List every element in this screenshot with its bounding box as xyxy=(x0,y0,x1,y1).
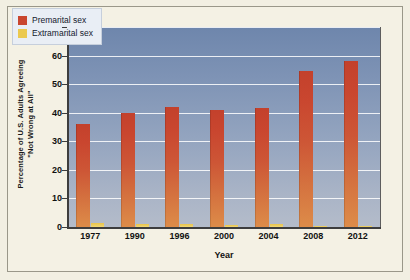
x-tick-label: 1990 xyxy=(125,231,145,241)
y-tick-mark xyxy=(62,198,67,199)
y-tick-label: 20 xyxy=(36,165,62,175)
y-axis-line xyxy=(67,27,69,228)
bar-premarital xyxy=(165,107,179,227)
y-tick-label: 10 xyxy=(36,193,62,203)
bar-group xyxy=(113,27,158,227)
x-tick-label: 2008 xyxy=(303,231,323,241)
x-tick-label: 1996 xyxy=(169,231,189,241)
bar-group xyxy=(202,27,247,227)
bar-group xyxy=(157,27,202,227)
y-tick-mark xyxy=(62,56,67,57)
legend-item: Premarital sex xyxy=(18,14,93,26)
bar-group xyxy=(291,27,336,227)
legend-swatch-icon xyxy=(18,16,27,25)
x-axis-ticks: 1977199019962000200420082012 xyxy=(68,231,380,245)
y-tick-mark xyxy=(62,84,67,85)
x-tick-label: 2012 xyxy=(348,231,368,241)
bar-group xyxy=(335,27,380,227)
y-tick-mark xyxy=(62,141,67,142)
bar-group xyxy=(68,27,113,227)
legend-label: Extramarital sex xyxy=(32,28,93,38)
y-tick-mark xyxy=(62,113,67,114)
bar-premarital xyxy=(255,108,269,227)
y-tick-mark xyxy=(62,27,67,28)
y-axis-ticks: 010203040506070 xyxy=(34,27,62,227)
x-tick-label: 2000 xyxy=(214,231,234,241)
y-tick-label: 0 xyxy=(36,222,62,232)
chart-legend: Premarital sexExtramarital sex xyxy=(12,8,102,45)
legend-swatch-icon xyxy=(18,29,27,38)
x-tick-label: 2004 xyxy=(259,231,279,241)
chart-figure: Percentage of U.S. Adults Agreeing "Not … xyxy=(0,0,410,280)
x-tick-label: 1977 xyxy=(80,231,100,241)
y-tick-label: 40 xyxy=(36,108,62,118)
y-axis-title-line1: Percentage of U.S. Adults Agreeing xyxy=(16,59,25,188)
legend-label: Premarital sex xyxy=(32,15,86,25)
y-tick-label: 60 xyxy=(36,51,62,61)
bar-premarital xyxy=(210,110,224,227)
y-tick-label: 50 xyxy=(36,79,62,89)
x-axis-title: Year xyxy=(68,250,380,260)
y-tick-label: 30 xyxy=(36,136,62,146)
bar-group xyxy=(246,27,291,227)
y-tick-mark xyxy=(62,227,67,228)
y-tick-mark xyxy=(62,170,67,171)
plot-area xyxy=(68,27,381,227)
legend-item: Extramarital sex xyxy=(18,27,93,39)
bar-premarital xyxy=(121,113,135,227)
bar-premarital xyxy=(76,124,90,227)
bar-premarital xyxy=(344,61,358,227)
bar-premarital xyxy=(299,71,313,227)
x-axis-line xyxy=(67,227,381,229)
